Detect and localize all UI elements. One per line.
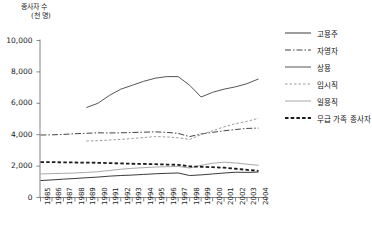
x-tick-label: 1995 xyxy=(158,187,166,205)
chart-container: 종사자 수 (천 명) 02,0004,0006,0008,00010,000 … xyxy=(0,0,372,234)
x-tick-label: 2003 xyxy=(250,187,258,205)
legend-label-3: 임시직 xyxy=(317,79,338,90)
x-tick-label: 1997 xyxy=(181,187,189,205)
x-tick-label: 1998 xyxy=(193,187,201,205)
x-tick-label: 1993 xyxy=(135,187,143,205)
y-tick-label: 8,000 xyxy=(0,67,33,76)
x-tick-label: 1994 xyxy=(147,187,155,205)
series-line-5 xyxy=(41,162,259,171)
x-tick-label: 2002 xyxy=(239,187,247,205)
x-tick-label: 1991 xyxy=(112,187,120,205)
x-tick-label: 1985 xyxy=(44,187,52,205)
series-line-2 xyxy=(86,77,258,108)
y-tick-label: 10,000 xyxy=(0,36,33,45)
x-tick-label: 1989 xyxy=(89,187,97,205)
y-tick-label: 4,000 xyxy=(0,130,33,139)
x-tick-label: 1986 xyxy=(55,187,63,205)
y-tick-label: 6,000 xyxy=(0,98,33,107)
x-tick-label: 1996 xyxy=(170,187,178,205)
y-tick-label: 2,000 xyxy=(0,161,33,170)
x-tick-label: 1992 xyxy=(124,187,132,205)
x-tick-label: 1988 xyxy=(78,187,86,205)
y-tick-label: 0 xyxy=(0,193,33,202)
legend-label-2: 상용 xyxy=(317,62,331,73)
x-tick-label: 2004 xyxy=(262,187,270,205)
legend-label-0: 고용주 xyxy=(317,28,338,39)
x-tick-label: 2000 xyxy=(216,187,224,205)
x-tick-label: 1987 xyxy=(66,187,74,205)
x-tick-label: 1999 xyxy=(204,187,212,205)
x-tick-label: 2001 xyxy=(227,187,235,205)
legend-label-1: 자영자 xyxy=(317,45,338,56)
legend-label-4: 일용직 xyxy=(317,96,338,107)
legend-label-5: 무급 가족 종사자 xyxy=(317,113,371,124)
series-line-1 xyxy=(41,128,259,136)
x-tick-label: 1990 xyxy=(101,187,109,205)
